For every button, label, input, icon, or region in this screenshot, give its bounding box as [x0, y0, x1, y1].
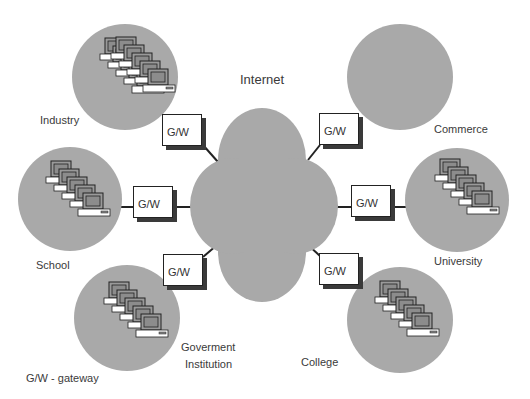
internet-cloud	[190, 108, 338, 302]
gateway-university: G/W	[351, 185, 391, 217]
site-commerce	[347, 24, 453, 130]
label-government-line2: Institution	[185, 358, 232, 371]
gateway-school: G/W	[133, 186, 173, 218]
gateway-commerce: G/W	[319, 113, 359, 145]
label-commerce: Commerce	[434, 123, 488, 136]
network-diagram	[0, 0, 530, 399]
legend-gateway: G/W - gateway	[26, 372, 99, 385]
gateway-label: G/W	[167, 126, 189, 138]
internet-title: Internet	[240, 73, 284, 86]
gateway-label: G/W	[356, 197, 378, 209]
gateway-label: G/W	[138, 198, 160, 210]
gateway-industry: G/W	[162, 114, 202, 146]
gateway-college: G/W	[319, 253, 359, 285]
label-college: College	[301, 356, 338, 369]
gateway-label: G/W	[168, 266, 190, 278]
label-university: University	[434, 255, 482, 268]
gateway-government: G/W	[163, 254, 203, 286]
label-industry: Industry	[40, 114, 79, 127]
gateway-label: G/W	[324, 125, 346, 137]
label-government-line1: Goverment	[181, 341, 235, 354]
gateway-label: G/W	[324, 265, 346, 277]
label-school: School	[36, 259, 70, 272]
